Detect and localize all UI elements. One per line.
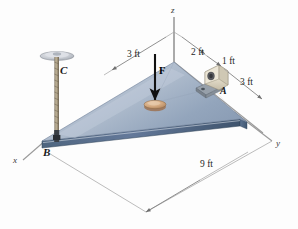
dimension-9ft: 9 ft <box>200 160 213 170</box>
force-label-f: F <box>159 66 165 77</box>
axis-label-x: x <box>13 156 17 165</box>
point-label-a: A <box>220 86 227 96</box>
dimension-1ft: 1 ft <box>222 57 235 67</box>
dimension-2ft: 2 ft <box>191 48 204 58</box>
point-label-b: B <box>43 147 50 158</box>
axis-label-z: z <box>171 6 175 15</box>
load-puck <box>144 100 166 111</box>
point-label-c: C <box>60 65 67 76</box>
dimension-3ft-left: 3 ft <box>127 50 140 60</box>
diagram-svg <box>0 0 298 229</box>
figure-canvas: z y x C B A F 3 ft 2 ft 1 ft 3 ft 9 ft <box>0 0 298 229</box>
dimension-3ft-right: 3 ft <box>240 78 253 88</box>
axis-label-y: y <box>276 139 280 148</box>
